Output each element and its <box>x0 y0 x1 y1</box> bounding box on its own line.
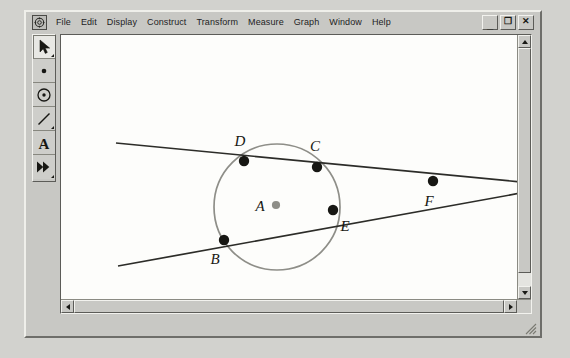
sketch-document-window: A D C B E F <box>60 34 532 314</box>
page-background: File Edit Display Construct Transform Me… <box>0 0 570 358</box>
point-B <box>219 235 229 245</box>
point-label-C: C <box>310 138 321 154</box>
menu-item-window[interactable]: Window <box>324 16 367 28</box>
scroll-down-arrow[interactable] <box>518 286 531 299</box>
circle-icon <box>36 87 52 103</box>
minimize-icon: _ <box>487 19 493 30</box>
point-A <box>272 201 280 209</box>
resize-grip[interactable] <box>525 321 537 333</box>
tool-submenu-indicator <box>51 126 54 129</box>
horizontal-scroll-track[interactable] <box>74 300 504 313</box>
sketch-canvas[interactable]: A D C B E F <box>62 36 517 298</box>
application-window: File Edit Display Construct Transform Me… <box>24 10 542 338</box>
close-icon: ✕ <box>522 17 530 26</box>
tool-submenu-indicator <box>51 175 54 178</box>
menu-item-help[interactable]: Help <box>367 16 396 28</box>
restore-icon: ❐ <box>504 17 512 26</box>
menu-item-construct[interactable]: Construct <box>142 16 191 28</box>
point-F <box>428 176 438 186</box>
horizontal-scroll-thumb[interactable] <box>74 300 504 313</box>
restore-button[interactable]: ❐ <box>500 15 516 30</box>
menu-item-file[interactable]: File <box>51 16 76 28</box>
vertical-scroll-thumb[interactable] <box>518 48 531 273</box>
app-system-menu-icon[interactable] <box>32 15 47 30</box>
point-tool[interactable] <box>33 59 55 83</box>
minimize-button[interactable]: _ <box>482 15 498 30</box>
chevron-up-icon <box>522 40 528 44</box>
toolbox: A <box>32 34 56 182</box>
menu-bar: File Edit Display Construct Transform Me… <box>26 12 540 32</box>
window-controls: _ ❐ ✕ <box>482 15 534 30</box>
chevron-left-icon <box>66 304 70 310</box>
letter-a-icon: A <box>36 135 52 151</box>
compass-circle-tool[interactable] <box>33 83 55 107</box>
scroll-right-arrow[interactable] <box>504 300 517 313</box>
svg-text:A: A <box>39 135 50 151</box>
scroll-left-arrow[interactable] <box>61 300 74 313</box>
straightedge-tool[interactable] <box>33 107 55 131</box>
point-label-A: A <box>254 198 265 214</box>
menu-item-graph[interactable]: Graph <box>289 16 325 28</box>
point-E <box>328 205 338 215</box>
point-label-B: B <box>210 251 219 267</box>
menu-item-edit[interactable]: Edit <box>76 16 102 28</box>
geometry-figure: A D C B E F <box>62 36 517 298</box>
menu-item-measure[interactable]: Measure <box>243 16 289 28</box>
arrow-icon <box>38 39 52 55</box>
scrollbar-corner <box>517 300 531 313</box>
chevron-right-icon <box>509 304 513 310</box>
tool-submenu-indicator <box>51 54 54 57</box>
menu-item-display[interactable]: Display <box>102 16 142 28</box>
custom-tool[interactable] <box>33 155 55 179</box>
selection-arrow-tool[interactable] <box>33 35 55 59</box>
point-C <box>312 162 322 172</box>
close-button[interactable]: ✕ <box>518 15 534 30</box>
point-label-D: D <box>234 133 246 149</box>
menu-item-transform[interactable]: Transform <box>191 16 243 28</box>
double-arrow-icon <box>36 160 52 174</box>
point-label-E: E <box>339 218 349 234</box>
scroll-up-arrow[interactable] <box>518 35 531 48</box>
vertical-scrollbar[interactable] <box>517 35 531 299</box>
point-label-F: F <box>423 193 434 209</box>
horizontal-scrollbar[interactable] <box>61 299 531 313</box>
point-D <box>239 156 249 166</box>
segment-icon <box>36 111 52 127</box>
chevron-down-icon <box>522 291 528 295</box>
vertical-scroll-track[interactable] <box>518 48 531 286</box>
point-icon <box>37 64 51 78</box>
text-tool[interactable]: A <box>33 131 55 155</box>
